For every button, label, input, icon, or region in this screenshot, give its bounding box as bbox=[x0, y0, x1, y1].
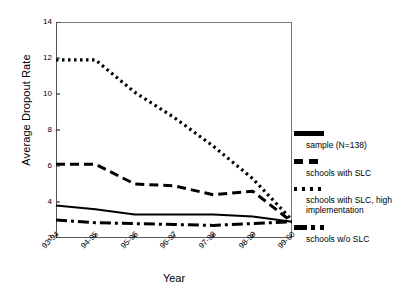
x-tick-label: 96-97 bbox=[158, 230, 179, 251]
legend-swatch-dashed bbox=[294, 159, 324, 164]
legend-label: sample (N=138) bbox=[306, 140, 367, 150]
chart-page: 14 12 10 8 6 4 2 Average Dropout Rate 93… bbox=[0, 0, 410, 300]
x-tick-label: 93-94 bbox=[40, 230, 61, 251]
legend-entry-slc: schools with SLC bbox=[292, 156, 410, 184]
legend-entry-no-slc: schools w/o SLC bbox=[292, 222, 410, 250]
legend-label: schools with SLC, high implementation bbox=[306, 195, 410, 215]
legend-entry-sample: sample (N=138) bbox=[292, 128, 410, 156]
legend-swatch-dotted bbox=[294, 187, 324, 191]
legend-swatch-dash-dot bbox=[294, 225, 324, 230]
legend-label: schools with SLC bbox=[306, 168, 371, 178]
x-axis-title: Year bbox=[56, 272, 292, 284]
legend-entry-slc-high: schools with SLC, high implementation bbox=[292, 184, 410, 222]
legend-label: schools w/o SLC bbox=[306, 234, 369, 244]
legend-swatch-solid bbox=[294, 131, 324, 136]
x-tick-label: 98-99 bbox=[237, 230, 258, 251]
chart-legend: sample (N=138) schools with SLC schools … bbox=[292, 128, 410, 240]
x-tick-label: 97-98 bbox=[197, 230, 218, 251]
x-tick-label: 94-95 bbox=[79, 230, 100, 251]
x-tick-label: 95-96 bbox=[119, 230, 140, 251]
